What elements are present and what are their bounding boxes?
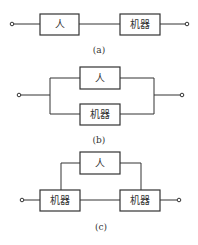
- diagram-a: 人 机器 (a): [10, 14, 189, 55]
- block-label: 人: [95, 158, 105, 169]
- output-terminal: [180, 93, 184, 97]
- diagram-b: 人 机器 (b): [17, 67, 184, 145]
- caption: (a): [93, 45, 105, 55]
- block-label: 人: [95, 73, 105, 84]
- block-label: 机器: [130, 18, 150, 30]
- block-label: 机器: [50, 194, 70, 206]
- output-terminal: [177, 198, 181, 202]
- output-terminal: [185, 22, 189, 26]
- block-label: 机器: [90, 108, 110, 120]
- input-terminal: [17, 93, 21, 97]
- block-label: 机器: [130, 194, 150, 206]
- block-label: 人: [55, 19, 65, 30]
- caption: (b): [93, 135, 106, 145]
- input-terminal: [20, 198, 24, 202]
- input-terminal: [10, 22, 14, 26]
- diagram-c: 人 机器 机器 (c): [20, 152, 181, 232]
- reliability-diagram: 人 机器 (a) 人 机器 (b) 人 机器: [0, 0, 198, 245]
- caption: (c): [95, 222, 107, 232]
